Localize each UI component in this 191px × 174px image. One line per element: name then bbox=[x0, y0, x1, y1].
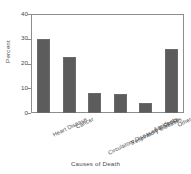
x-axis-title: Causes of Death bbox=[0, 160, 191, 167]
y-tick-mark bbox=[27, 14, 31, 15]
bar-chart: Percent 010203040 Heart DiseaseCancerCir… bbox=[0, 0, 191, 174]
y-tick-mark bbox=[27, 39, 31, 40]
y-tick-mark bbox=[27, 64, 31, 65]
y-tick-mark bbox=[27, 88, 31, 89]
y-tick-mark bbox=[27, 113, 31, 114]
x-axis-category-labels: Heart DiseaseCancerCirculatory Diseases … bbox=[0, 0, 191, 174]
